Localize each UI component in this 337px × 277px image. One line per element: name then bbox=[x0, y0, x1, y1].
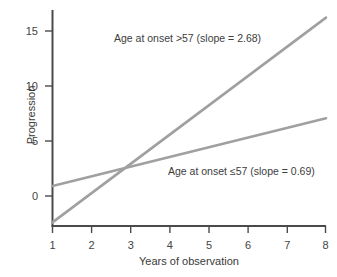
series-annotation-low-onset: Age at onset ≤57 (slope = 0.69) bbox=[168, 166, 315, 177]
x-tick-label-5: 5 bbox=[206, 240, 212, 251]
x-tick-label-4: 4 bbox=[167, 240, 173, 251]
series-annotation-high-onset: Age at onset >57 (slope = 2.68) bbox=[114, 33, 261, 44]
x-tick-label-3: 3 bbox=[128, 240, 134, 251]
series-line-high-onset bbox=[53, 18, 327, 223]
y-axis-label-wrap: Progression bbox=[0, 30, 22, 200]
x-tick-label-7: 7 bbox=[284, 240, 290, 251]
x-axis-label: Years of observation bbox=[52, 256, 326, 267]
x-tick-label-2: 2 bbox=[89, 240, 95, 251]
x-tick-label-6: 6 bbox=[245, 240, 251, 251]
x-tick-label-8: 8 bbox=[322, 240, 328, 251]
x-tick-label-1: 1 bbox=[49, 240, 55, 251]
chart-container: 15 10 5 0 1 2 3 4 5 6 7 8 Progression Ye… bbox=[0, 0, 337, 277]
y-axis-label: Progression bbox=[26, 86, 37, 145]
